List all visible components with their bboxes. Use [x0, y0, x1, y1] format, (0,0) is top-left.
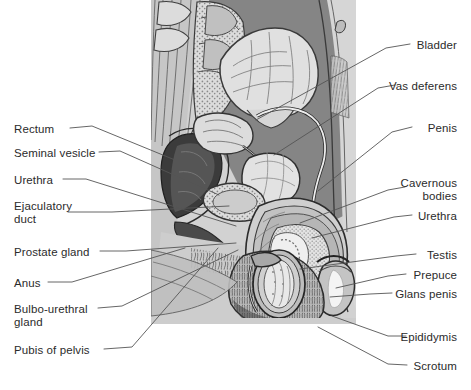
label-bulbo-urethral-gland: Bulbo-urethral gland — [14, 303, 88, 329]
label-urethra-right: Urethra — [418, 210, 457, 223]
label-prostate-gland: Prostate gland — [14, 246, 90, 259]
label-scrotum: Scrotum — [413, 360, 457, 373]
label-glans-penis: Glans penis — [395, 288, 457, 301]
label-seminal-vesicle: Seminal vesicle — [14, 147, 95, 160]
label-anus: Anus — [14, 277, 41, 290]
label-penis: Penis — [428, 122, 457, 135]
leader-scrotum — [318, 327, 407, 365]
label-prepuce: Prepuce — [413, 269, 457, 282]
label-bladder: Bladder — [417, 39, 457, 52]
label-pubis-of-pelvis: Pubis of pelvis — [14, 344, 90, 357]
label-vas-deferens: Vas deferens — [389, 80, 457, 93]
label-urethra-left: Urethra — [14, 174, 53, 187]
anatomy-figure: Rectum Seminal vesicle Urethra Ejaculato… — [0, 0, 471, 390]
label-rectum: Rectum — [14, 123, 54, 136]
label-cavernous-bodies: Cavernous bodies — [400, 177, 457, 203]
label-ejaculatory-duct: Ejaculatory duct — [14, 200, 72, 226]
label-testis: Testis — [427, 249, 457, 262]
label-epididymis: Epididymis — [400, 331, 457, 344]
anatomy-illustration — [151, 0, 356, 324]
